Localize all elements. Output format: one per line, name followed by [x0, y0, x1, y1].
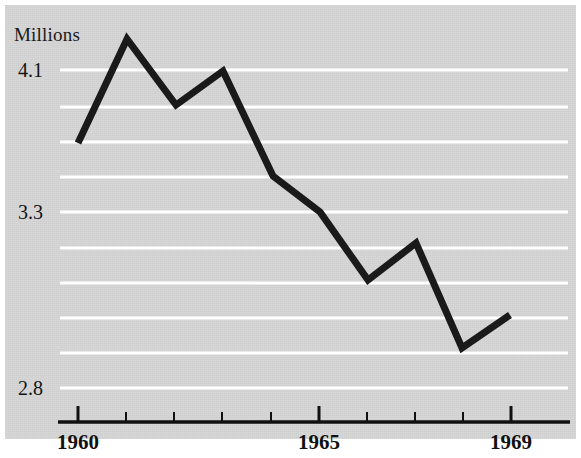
x-axis-tick-label: 1969 — [490, 430, 532, 455]
y-axis-tick-label: 4.1 — [18, 59, 43, 82]
data-series-line — [78, 39, 510, 348]
line-chart-figure: Millions 4.13.32.8 196019651969 — [0, 0, 581, 458]
chart-vector-layer — [0, 0, 581, 458]
x-axis-tick-label: 1960 — [57, 430, 99, 455]
data-line-group — [78, 39, 510, 348]
x-axis-tick-label: 1965 — [298, 430, 340, 455]
y-axis-tick-label: 2.8 — [18, 377, 43, 400]
y-axis-tick-label: 3.3 — [18, 201, 43, 224]
y-axis-unit-label: Millions — [14, 24, 80, 46]
x-axis-ticks-group — [78, 406, 511, 422]
gridlines-group — [60, 70, 568, 388]
